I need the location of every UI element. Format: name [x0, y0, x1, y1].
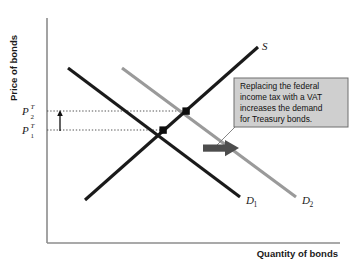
callout-line-4: for Treasury bonds. [240, 114, 312, 124]
demand-curve-1-label-sub: 1 [254, 200, 258, 209]
chart-background [0, 0, 355, 266]
price-tick-p1-base: P [21, 124, 29, 136]
callout-line-3: increases the demand [240, 103, 323, 113]
callout-line-2: income tax with a VAT [240, 92, 322, 102]
y-axis-title: Price of bonds [8, 35, 19, 101]
supply-demand-figure: S D 1 D 2 P 2 T P 1 T Price of bonds Qua… [0, 0, 355, 266]
supply-curve-label: S [262, 40, 268, 52]
price-tick-p2-sub: 2 [31, 113, 35, 121]
demand-curve-2-label-sub: 2 [310, 200, 314, 209]
chart-canvas: S D 1 D 2 P 2 T P 1 T Price of bonds Qua… [0, 0, 355, 266]
callout-line-1: Replacing the federal [240, 81, 319, 91]
equilibrium-marker-2 [182, 107, 189, 114]
equilibrium-marker-1 [159, 126, 166, 133]
price-tick-p2-base: P [21, 105, 29, 117]
annotation-callout: Replacing the federal income tax with a … [234, 78, 348, 127]
x-axis-title: Quantity of bonds [257, 248, 338, 259]
price-tick-p1-sub: 1 [31, 132, 35, 140]
